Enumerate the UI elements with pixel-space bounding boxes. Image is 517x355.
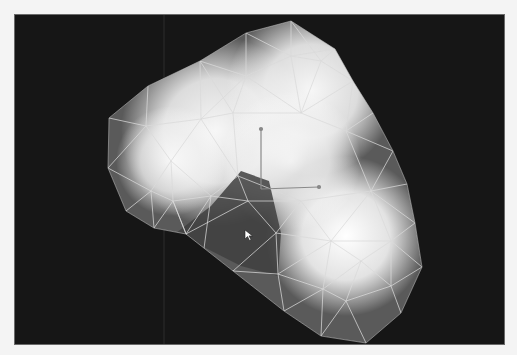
x-axis-handle[interactable] bbox=[318, 186, 321, 189]
mesh[interactable] bbox=[108, 14, 426, 343]
mesh-scene[interactable] bbox=[14, 14, 505, 345]
3d-viewport[interactable] bbox=[14, 14, 505, 345]
y-axis-handle[interactable] bbox=[260, 128, 263, 131]
